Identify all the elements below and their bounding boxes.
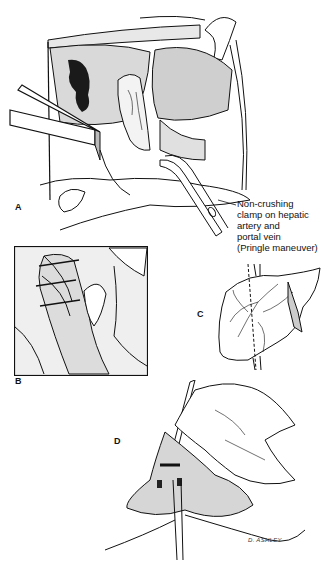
panel-label-d: D — [114, 436, 121, 446]
panel-d-illustration — [105, 380, 305, 560]
panel-label-b: B — [15, 376, 22, 386]
artist-signature: D. ASHLEY — [248, 537, 282, 543]
panel-b-illustration — [14, 246, 148, 376]
pringle-clamp — [160, 155, 228, 236]
hand-scalpel-drawing — [105, 380, 305, 560]
tissue-ligation-drawing — [14, 246, 148, 376]
panel-label-c: C — [197, 309, 204, 319]
liver-segment-diagram — [208, 262, 328, 370]
panel-label-a: A — [15, 202, 22, 212]
panel-c-illustration — [208, 262, 328, 370]
pringle-clamp-callout: Non-crushing clamp on hepatic artery and… — [237, 198, 318, 253]
